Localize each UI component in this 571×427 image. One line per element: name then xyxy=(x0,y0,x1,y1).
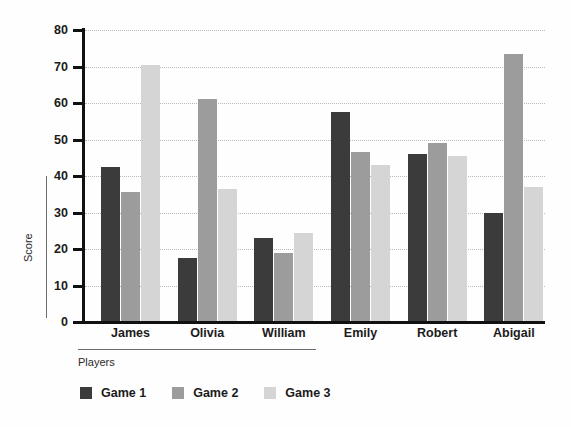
legend-label: Game 1 xyxy=(101,386,146,400)
bar-group xyxy=(484,30,543,322)
x-axis-line xyxy=(82,321,545,324)
y-tick-mark xyxy=(73,175,83,178)
y-tick-mark xyxy=(73,102,83,105)
bar xyxy=(254,238,273,322)
y-tick-label: 80 xyxy=(42,24,68,37)
bar xyxy=(504,54,523,322)
bar-group xyxy=(254,30,313,322)
bar xyxy=(121,192,140,322)
legend-swatch-icon xyxy=(172,387,184,399)
bar-chart: 80706050403020100 JamesOliviaWilliamEmil… xyxy=(0,0,571,427)
legend-item[interactable]: Game 1 xyxy=(80,386,146,400)
bar xyxy=(294,233,313,322)
bar xyxy=(198,99,217,322)
bar xyxy=(371,165,390,322)
y-tick-label: 70 xyxy=(42,61,68,74)
y-tick-label: 60 xyxy=(42,97,68,110)
bar xyxy=(448,156,467,322)
legend-label: Game 3 xyxy=(285,386,330,400)
y-tick-mark xyxy=(73,248,83,251)
y-tick-mark xyxy=(73,285,83,288)
legend-item[interactable]: Game 3 xyxy=(264,386,330,400)
category-label: Abigail xyxy=(469,326,559,340)
bar xyxy=(408,154,427,322)
bar-group xyxy=(331,30,390,322)
bar xyxy=(141,65,160,322)
bar xyxy=(331,112,350,322)
bar xyxy=(428,143,447,322)
y-tick-mark xyxy=(73,66,83,69)
bar xyxy=(101,167,120,322)
bar xyxy=(351,152,370,322)
chart-legend: Game 1Game 2Game 3 xyxy=(80,386,357,400)
bar xyxy=(178,258,197,322)
legend-label: Game 2 xyxy=(193,386,238,400)
y-axis-title: Score xyxy=(22,202,34,262)
y-tick-mark xyxy=(73,139,83,142)
legend-swatch-icon xyxy=(264,387,276,399)
y-axis-title-rule xyxy=(46,176,47,318)
legend-swatch-icon xyxy=(80,387,92,399)
y-tick-mark xyxy=(73,212,83,215)
x-axis-title-rule xyxy=(78,349,316,350)
y-tick-mark xyxy=(73,29,83,32)
bar-group xyxy=(408,30,467,322)
y-tick-mark xyxy=(73,321,83,324)
y-tick-label: 50 xyxy=(42,134,68,147)
bar-group xyxy=(101,30,160,322)
x-axis-title: Players xyxy=(78,356,115,368)
bar xyxy=(524,187,543,322)
plot-area xyxy=(85,30,545,322)
bar xyxy=(274,253,293,322)
legend-item[interactable]: Game 2 xyxy=(172,386,238,400)
bar xyxy=(484,213,503,322)
bar-group xyxy=(178,30,237,322)
bar xyxy=(218,189,237,322)
